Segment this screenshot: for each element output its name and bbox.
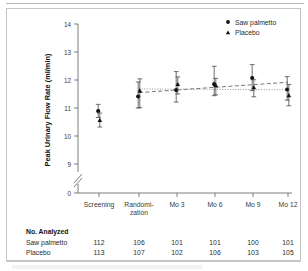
- y-tick-label-10: 10: [64, 133, 72, 140]
- figure-panel: 14 13 12 11 10 9 0 Peak Urinary Flow Rat…: [0, 0, 308, 271]
- x-tick-label-mo9: Mo 9: [245, 201, 260, 208]
- x-tick-group: [99, 193, 288, 197]
- x-tick-label-mo6: Mo 6: [207, 201, 222, 208]
- y-tick-label-12: 12: [64, 77, 72, 84]
- data-point-circle: [96, 109, 100, 113]
- data-point-triangle: [98, 118, 103, 122]
- axis-break-icon: [74, 174, 82, 183]
- y-tick-label-11: 11: [64, 105, 71, 112]
- y-tick-label-14: 14: [64, 21, 72, 28]
- y-tick-label-9: 9: [67, 161, 71, 168]
- trend-line-placebo: [139, 89, 288, 90]
- x-tick-label-mo3: Mo 3: [169, 201, 184, 208]
- legend-label-saw-palmetto: Saw palmetto: [235, 19, 276, 27]
- y-tick-group: [74, 24, 78, 193]
- x-tick-label-randomization-line1: Randomi-: [124, 201, 153, 208]
- series-saw-palmetto: [96, 65, 290, 118]
- y-axis-title: Peak Urinary Flow Rate (ml/min): [43, 53, 52, 166]
- x-tick-label-mo12: Mo 12: [279, 201, 298, 208]
- bottom-rule: [6, 261, 301, 262]
- x-tick-label-randomization-line2: zation: [130, 209, 148, 216]
- chart-area: 14 13 12 11 10 9 0 Peak Urinary Flow Rat…: [0, 0, 308, 271]
- legend-triangle-icon: [226, 31, 230, 35]
- legend-label-placebo: Placebo: [235, 29, 260, 36]
- legend-circle-icon: [226, 20, 230, 24]
- chart-svg: 14 13 12 11 10 9 0 Peak Urinary Flow Rat…: [0, 0, 308, 271]
- y-tick-label-0: 0: [67, 190, 71, 197]
- legend: Saw palmetto Placebo: [226, 19, 277, 36]
- x-tick-label-screening: Screening: [84, 201, 115, 209]
- y-tick-label-13: 13: [64, 49, 72, 56]
- caption-text-sliver: [12, 265, 202, 269]
